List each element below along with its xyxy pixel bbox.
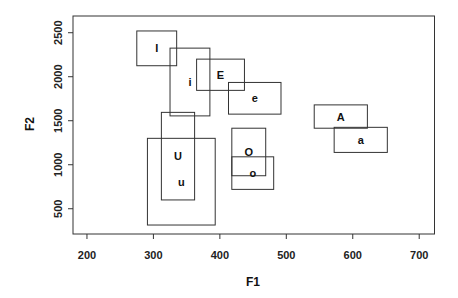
y-tick-label: 500: [52, 200, 64, 218]
box-label: A: [337, 111, 345, 123]
box-label: I: [155, 42, 158, 54]
vowel-formant-chart: IiEeAaOoUu 200300400500600700 5001000150…: [0, 0, 458, 298]
formant-box-a: a: [334, 127, 387, 152]
formant-box-E: E: [197, 59, 245, 90]
y-tick-label: 1500: [52, 108, 64, 132]
box-label: O: [244, 146, 253, 158]
box-label: E: [217, 69, 224, 81]
box-label: e: [252, 92, 258, 104]
y-tick-label: 2500: [52, 20, 64, 44]
y-tick-label: 1000: [52, 152, 64, 176]
y-axis-label: F2: [23, 117, 37, 131]
plot-frame: [73, 16, 435, 234]
x-tick-label: 400: [211, 249, 229, 261]
x-tick-label: 300: [144, 249, 162, 261]
box-label: a: [358, 134, 365, 146]
x-tick-label: 200: [78, 249, 96, 261]
formant-box-A: A: [314, 105, 367, 128]
x-axis: 200300400500600700: [78, 234, 429, 261]
box-label: o: [249, 167, 256, 179]
x-tick-label: 500: [277, 249, 295, 261]
y-tick-label: 2000: [52, 64, 64, 88]
formant-boxes: IiEeAaOoUu: [137, 31, 388, 225]
x-tick-label: 700: [410, 249, 428, 261]
formant-box-i: i: [170, 48, 210, 116]
box-label: U: [174, 150, 182, 162]
box-label: u: [178, 176, 185, 188]
x-axis-label: F1: [246, 275, 260, 289]
formant-box-e: e: [228, 82, 280, 114]
y-axis: 5001000150020002500: [52, 20, 73, 217]
x-tick-label: 600: [344, 249, 362, 261]
box-label: i: [188, 76, 191, 88]
formant-box-o: o: [232, 157, 274, 190]
